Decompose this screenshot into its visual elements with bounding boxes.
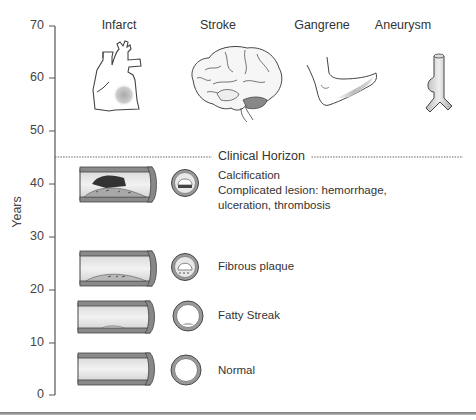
stage-label-complicated-lesion-cont: ulceration, thrombosis <box>218 198 387 213</box>
artery-cross-section-normal <box>171 355 201 385</box>
stage-label-calcification: Calcification <box>218 168 387 183</box>
artery-longitudinal-normal <box>78 353 155 385</box>
bottom-divider <box>0 412 476 415</box>
artery-longitudinal-complicated <box>80 167 157 202</box>
artery-cross-section-complicated <box>172 170 199 197</box>
artery-cross-section-fibrous-plaque <box>172 254 199 281</box>
stage-label-fibrous-plaque: Fibrous plaque <box>218 259 294 274</box>
artery-longitudinal-fibrous-plaque <box>80 251 157 286</box>
stage-label-fatty-streak: Fatty Streak <box>218 308 280 323</box>
artery-longitudinal-fatty-streak <box>78 301 155 333</box>
stage-label-complicated: Calcification Complicated lesion: hemorr… <box>218 168 387 213</box>
stage-label-complicated-lesion: Complicated lesion: hemorrhage, <box>218 183 387 198</box>
artery-cross-section-fatty-streak <box>173 301 203 331</box>
stage-label-normal: Normal <box>218 363 255 378</box>
